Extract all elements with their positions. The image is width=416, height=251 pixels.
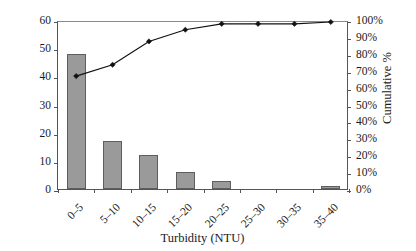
y-tick-label-left: 50 — [21, 43, 51, 55]
y-tick-label-left: 20 — [21, 128, 51, 140]
plot-area — [57, 21, 348, 190]
y-tick-label-left: 60 — [21, 15, 51, 27]
y-tick-label-right: 20% — [356, 150, 396, 162]
cumulative-line-path — [76, 22, 331, 76]
cumulative-line-marker — [328, 19, 333, 24]
cumulative-line — [58, 22, 349, 191]
y-tick-label-left: 30 — [21, 100, 51, 112]
y-tick-label-right: 80% — [356, 49, 396, 61]
cumulative-line-marker — [183, 27, 188, 32]
cumulative-line-marker — [219, 21, 224, 26]
y-tick-label-right: 40% — [356, 117, 396, 129]
x-tick — [349, 189, 350, 193]
pareto-chart: Frequency Cumulative % Turbidity (NTU) 0… — [0, 0, 416, 251]
cumulative-line-marker — [74, 73, 79, 78]
y-tick-label-left: 40 — [21, 72, 51, 84]
cumulative-line-marker — [292, 21, 297, 26]
y-tick-label-right: 100% — [356, 15, 396, 27]
y-tick-label-right: 30% — [356, 134, 396, 146]
y-tick-label-left: 0 — [21, 184, 51, 196]
y-tick-label-right: 60% — [356, 83, 396, 95]
y-tick-label-right: 70% — [356, 66, 396, 78]
y-tick-label-right: 50% — [356, 100, 396, 112]
y-tick-label-right: 0% — [356, 184, 396, 196]
y-tick-label-left: 10 — [21, 156, 51, 168]
y-tick-label-right: 90% — [356, 32, 396, 44]
y-tick-label-right: 10% — [356, 167, 396, 179]
cumulative-line-marker — [255, 21, 260, 26]
